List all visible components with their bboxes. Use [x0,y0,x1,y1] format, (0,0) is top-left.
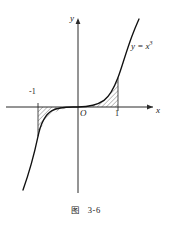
origin-label: O [80,109,87,118]
shaded-region-left [38,107,78,136]
shaded-region-right [78,78,118,107]
figure-caption: 图3-6 [0,203,172,215]
curve-equation-exponent: 3 [150,40,153,46]
curve-equation-label: y = x3 [131,42,153,51]
curve-equation-base: y = x [131,41,150,51]
figure-caption-label: 图 [71,205,81,215]
y-axis-arrowhead [76,18,81,24]
x-axis-arrowhead [147,105,153,110]
tick-label-x-negative-one: -1 [29,88,36,96]
y-axis-label: y [70,14,74,23]
tick-label-x-positive-one: 1 [115,110,119,118]
cubic-curve [23,19,139,190]
figure-caption-number: 3-6 [88,205,101,215]
figure-container: y x O -1 1 y = x3 图3-6 [0,0,172,227]
x-axis-label: x [156,106,160,115]
